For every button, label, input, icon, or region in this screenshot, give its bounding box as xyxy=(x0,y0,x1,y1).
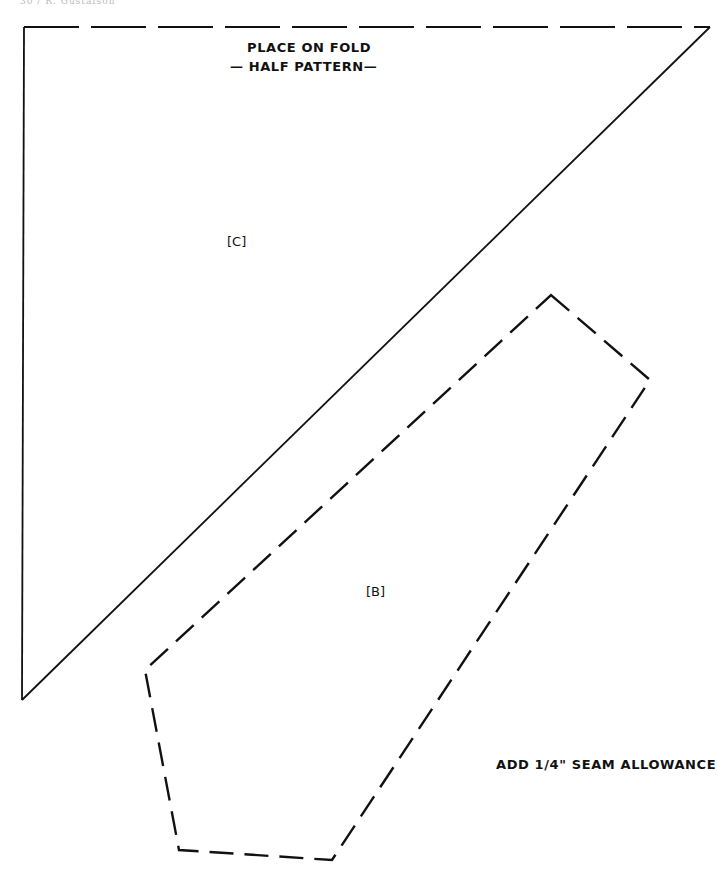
pattern-drawing xyxy=(0,0,718,880)
pattern-piece-c-outline xyxy=(22,27,710,700)
piece-label-c: [C] xyxy=(227,234,246,249)
fold-note-line1: PLACE ON FOLD xyxy=(247,40,371,55)
pattern-piece-b-outline xyxy=(145,295,650,860)
piece-label-b: [B] xyxy=(366,584,385,599)
left-edge xyxy=(22,27,24,700)
diagonal-edge xyxy=(22,27,710,700)
seam-allowance-note: ADD 1/4" SEAM ALLOWANCE xyxy=(496,757,716,772)
fold-note-line2: — HALF PATTERN— xyxy=(230,59,377,74)
